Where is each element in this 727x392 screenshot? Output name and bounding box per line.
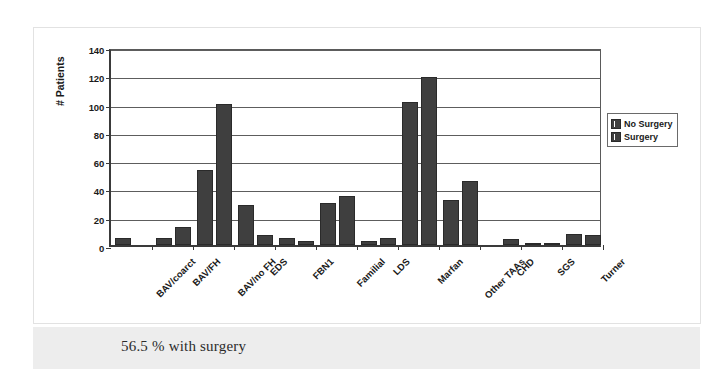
y-axis-tick-label: 140: [89, 45, 104, 56]
x-axis-label: Other TAAs: [482, 256, 527, 301]
bar: [566, 234, 582, 245]
bar: [462, 181, 478, 245]
y-axis-tick-mark: [106, 135, 111, 136]
legend-label: Surgery: [624, 132, 658, 142]
bar: [443, 200, 459, 245]
y-axis-tick-label: 100: [89, 101, 104, 112]
x-axis-label: BAV/coarct: [153, 256, 196, 299]
bar-group: [318, 50, 359, 245]
bar: [525, 243, 541, 245]
bar-group: [523, 50, 564, 245]
y-axis-tick-mark: [106, 163, 111, 164]
caption-band: 56.5 % with surgery: [33, 327, 700, 369]
y-axis-tick-label: 80: [94, 129, 104, 140]
y-axis-tick-mark: [106, 50, 111, 51]
bar: [175, 227, 191, 245]
bar-group: [154, 50, 195, 245]
bar: [361, 241, 377, 245]
x-axis-labels: BAV/coarctBAV/FHBAV/no FHEDSFBN1Familial…: [109, 250, 601, 320]
y-axis-tick-label: 0: [99, 243, 104, 254]
x-axis-label: Familial: [354, 256, 387, 289]
bar: [279, 238, 295, 245]
bar: [380, 238, 396, 245]
bar: [238, 205, 254, 245]
y-axis-tick-mark: [106, 78, 111, 79]
y-axis-tick-mark: [106, 220, 111, 221]
bar: [115, 238, 131, 245]
bar: [320, 203, 336, 245]
y-axis-tick-mark: [106, 107, 111, 108]
bar: [339, 196, 355, 246]
bar: [421, 77, 437, 245]
y-axis-tick-label: 120: [89, 73, 104, 84]
bar: [156, 238, 172, 245]
bar-group: [441, 50, 482, 245]
figure-frame: # Patients 020406080100120140 BAV/coarct…: [33, 27, 701, 324]
y-axis-tick-label: 60: [94, 158, 104, 169]
bar-group: [277, 50, 318, 245]
bar: [257, 235, 273, 245]
legend-entry: No Surgery: [611, 117, 673, 130]
bar-group: [564, 50, 605, 245]
bar: [544, 243, 560, 245]
legend-label: No Surgery: [624, 119, 673, 129]
y-axis-tick-mark: [106, 191, 111, 192]
bar: [197, 170, 213, 245]
x-axis-label: Turner: [598, 256, 627, 285]
bar: [503, 239, 519, 245]
caption-text: 56.5 % with surgery: [121, 338, 246, 355]
bar-group: [482, 50, 523, 245]
x-axis-label: SGS: [554, 256, 576, 278]
chart-legend: No SurgerySurgery: [607, 113, 678, 147]
y-axis-tick-label: 20: [94, 214, 104, 225]
bar: [216, 104, 232, 245]
x-axis-label: FBN1: [310, 256, 335, 281]
bar: [402, 102, 418, 245]
bar-group: [195, 50, 236, 245]
legend-swatch-icon: [611, 132, 621, 142]
legend-entry: Surgery: [611, 130, 673, 143]
bar-group: [113, 50, 154, 245]
x-axis-label: Marfan: [435, 256, 465, 286]
y-axis-tick-label: 40: [94, 186, 104, 197]
bar-group: [400, 50, 441, 245]
bar: [585, 235, 601, 245]
bar: [298, 241, 314, 245]
plot-area: 020406080100120140: [109, 49, 601, 247]
y-axis-tick-mark: [106, 248, 111, 249]
x-axis-label: BAV/no FH: [235, 256, 277, 298]
bar-chart: # Patients 020406080100120140 BAV/coarct…: [34, 28, 702, 325]
bar-group: [236, 50, 277, 245]
legend-swatch-icon: [611, 119, 621, 129]
y-axis-title: # Patients: [54, 56, 66, 106]
bar-group: [359, 50, 400, 245]
x-axis-label: LDS: [390, 256, 411, 277]
x-axis-tick-mark: [603, 245, 604, 250]
bars-layer: [113, 50, 600, 245]
